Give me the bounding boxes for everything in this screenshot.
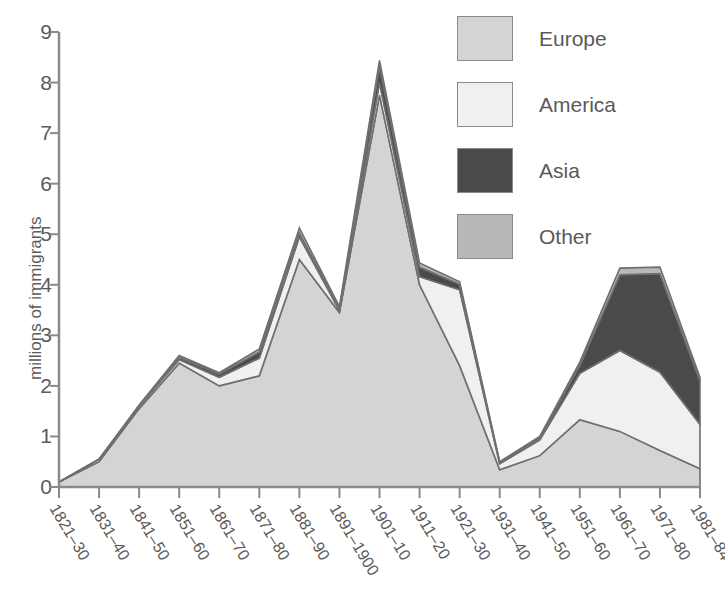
legend-label: Europe xyxy=(539,27,607,51)
chart-container: millions of immigrants 0123456789 1821–3… xyxy=(0,0,725,595)
legend-item-europe[interactable]: Europe xyxy=(457,16,607,61)
legend-label: Asia xyxy=(539,159,580,183)
legend-item-asia[interactable]: Asia xyxy=(457,148,580,193)
stacked-area-plot xyxy=(0,0,725,595)
legend-item-america[interactable]: America xyxy=(457,82,616,127)
legend-swatch-other xyxy=(457,214,513,259)
area-series-europe xyxy=(59,95,700,487)
legend-item-other[interactable]: Other xyxy=(457,214,592,259)
legend-label: America xyxy=(539,93,616,117)
legend-swatch-america xyxy=(457,82,513,127)
legend-swatch-europe xyxy=(457,16,513,61)
legend-label: Other xyxy=(539,225,592,249)
legend-swatch-asia xyxy=(457,148,513,193)
